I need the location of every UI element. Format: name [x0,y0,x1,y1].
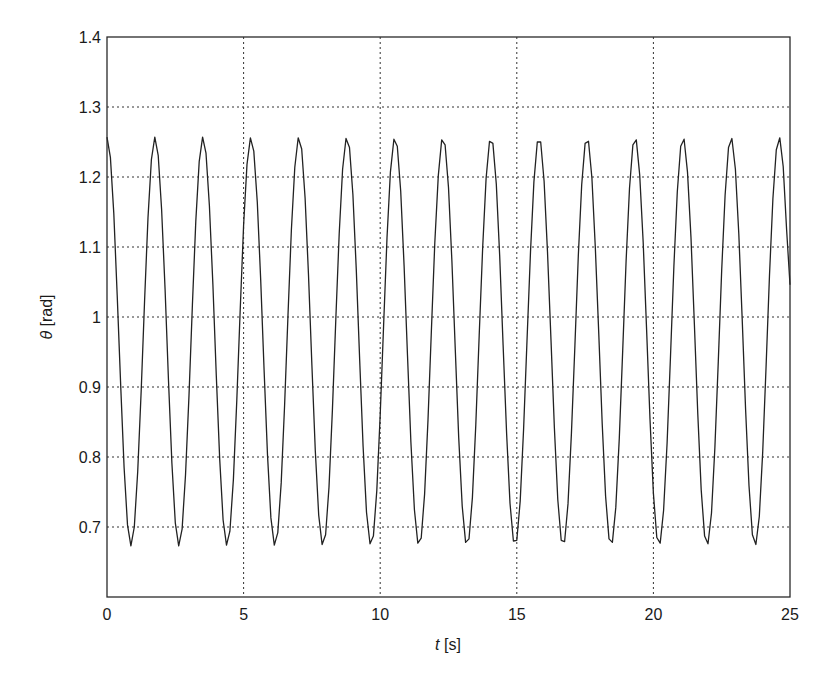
x-tick-label: 25 [781,606,799,623]
y-axis-label: θ [rad] [38,294,55,339]
y-tick-label: 1.3 [79,99,101,116]
y-tick-label: 1.1 [79,239,101,256]
y-axis-variable: θ [38,331,55,340]
theta-vs-time-chart: 0510152025 0.70.80.911.11.21.31.4 t [s] … [0,0,839,687]
y-tick-label: 1 [92,309,101,326]
y-tick-label: 0.9 [79,379,101,396]
y-tick-label: 1.4 [79,29,101,46]
x-tick-label: 5 [239,606,248,623]
x-axis-label: t [s] [435,636,461,653]
x-tick-label: 20 [645,606,663,623]
y-tick-label: 1.2 [79,169,101,186]
x-tick-labels: 0510152025 [103,606,799,623]
y-axis-unit: [rad] [38,294,55,330]
x-axis-unit: [s] [440,636,461,653]
y-tick-labels: 0.70.80.911.11.21.31.4 [79,29,101,536]
x-tick-label: 10 [371,606,389,623]
y-tick-label: 0.8 [79,449,101,466]
grid-lines [107,37,790,597]
y-tick-label: 0.7 [79,519,101,536]
series-layer [107,137,790,546]
x-tick-label: 0 [103,606,112,623]
x-tick-label: 15 [508,606,526,623]
series-line-theta [107,137,790,546]
